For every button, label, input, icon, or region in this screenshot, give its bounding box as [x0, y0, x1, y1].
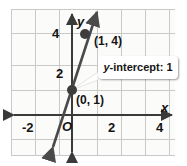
x-axis-label: x: [161, 101, 168, 114]
y-intercept-callout-text: y-intercept: 1: [103, 62, 172, 73]
y-tick-label-2: 2: [56, 67, 63, 80]
callout-suffix: -intercept: 1: [110, 61, 173, 73]
point-label-1-4: (1, 4): [94, 35, 122, 47]
data-point-marker: [80, 29, 90, 39]
coordinate-graph-figure: 4 2 -2 2 4 O y x (1, 4) (0, 1) y-interce…: [0, 0, 187, 166]
y-tick-label-4: 4: [52, 27, 59, 40]
y-axis-label: y: [77, 15, 84, 28]
x-tick-label-2: 2: [108, 121, 115, 134]
x-tick-label-4: 4: [156, 121, 163, 134]
y-intercept-callout: y-intercept: 1: [98, 56, 178, 79]
graph-vector-layer: [0, 0, 187, 166]
point-label-0-1: (0, 1): [76, 94, 104, 106]
origin-label: O: [62, 120, 72, 133]
x-tick-label-neg2: -2: [22, 121, 34, 134]
